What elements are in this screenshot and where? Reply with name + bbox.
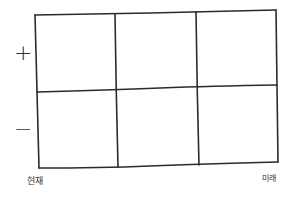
- grid-horizontal-divider: [37, 85, 277, 92]
- grid-bottom-border: [39, 162, 278, 168]
- row-label-minus: −: [14, 116, 32, 141]
- axis-label-future: 미래: [262, 172, 275, 183]
- row-label-plus: +: [14, 40, 32, 65]
- grid-vertical-divider-1: [115, 14, 118, 167]
- axis-label-present: 현재: [27, 174, 42, 187]
- grid-diagram: [0, 0, 296, 198]
- grid-right-border: [276, 10, 278, 162]
- grid-vertical-divider-2: [196, 12, 199, 165]
- grid-top-border: [35, 10, 276, 15]
